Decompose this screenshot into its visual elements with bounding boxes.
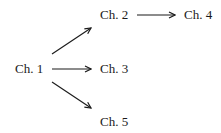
node-ch2: Ch. 2 xyxy=(100,8,128,22)
node-ch5: Ch. 5 xyxy=(100,115,128,129)
node-ch3: Ch. 3 xyxy=(100,62,128,76)
arrow-ch1-to-ch2 xyxy=(52,28,91,54)
arrow-ch1-to-ch5 xyxy=(52,82,91,108)
node-ch4: Ch. 4 xyxy=(184,8,212,22)
node-ch1: Ch. 1 xyxy=(15,62,43,76)
